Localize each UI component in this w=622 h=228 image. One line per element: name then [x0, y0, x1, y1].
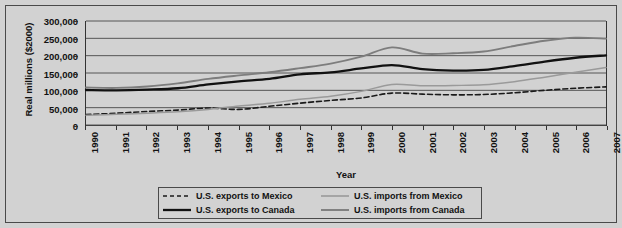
y-tick-mark — [74, 39, 78, 40]
x-tick-mark — [116, 126, 117, 130]
x-tick-mark — [177, 126, 178, 130]
data-series-layer — [86, 21, 606, 125]
legend-entry: U.S. exports to Mexico — [162, 191, 320, 201]
x-tick-mark — [423, 126, 424, 130]
solid-black-line-icon — [162, 205, 192, 215]
x-tick-label: 1995 — [243, 132, 254, 153]
x-tick-mark — [546, 126, 547, 130]
x-tick-label: 2003 — [488, 132, 499, 153]
x-tick-mark — [515, 126, 516, 130]
chart-legend: U.S. exports to MexicoU.S. imports from … — [158, 187, 482, 219]
y-tick-label: 100,000 — [12, 86, 78, 97]
y-tick-mark — [74, 126, 78, 127]
x-tick-label: 2000 — [396, 132, 407, 153]
chart-figure: Real millions ($2000) 050,000100,000150,… — [0, 0, 622, 228]
x-tick-label: 1992 — [150, 132, 161, 153]
plot-area — [85, 21, 607, 126]
x-tick-label: 2001 — [427, 132, 438, 153]
x-tick-mark — [331, 126, 332, 130]
x-tick-mark — [85, 126, 86, 130]
legend-entry: U.S. exports to Canada — [162, 205, 320, 215]
y-axis-tick-labels: 050,000100,000150,000200,000250,000300,0… — [6, 21, 78, 126]
x-tick-mark — [300, 126, 301, 130]
y-tick-label: 250,000 — [12, 33, 78, 44]
x-tick-label: 1999 — [365, 132, 376, 153]
x-tick-label: 2002 — [457, 132, 468, 153]
y-tick-mark — [74, 91, 78, 92]
x-tick-mark — [576, 126, 577, 130]
y-tick-mark — [74, 56, 78, 57]
x-tick-label: 1996 — [273, 132, 284, 153]
x-tick-mark — [484, 126, 485, 130]
solid-lightgray-line-icon — [320, 191, 350, 201]
chart-frame: Real millions ($2000) 050,000100,000150,… — [5, 5, 617, 223]
x-tick-label: 2005 — [550, 132, 561, 153]
legend-entry: U.S. imports from Mexico — [320, 191, 478, 201]
y-tick-mark — [74, 109, 78, 110]
x-axis-tick-labels: 1990199119921993199419951996199719981999… — [85, 132, 607, 166]
y-tick-label: 150,000 — [12, 68, 78, 79]
dashed-black-line-icon — [162, 191, 192, 201]
x-tick-mark — [239, 126, 240, 130]
x-axis-tick-marks — [85, 126, 607, 131]
legend-entry: U.S. imports from Canada — [320, 205, 478, 215]
x-tick-label: 1998 — [335, 132, 346, 153]
x-tick-label: 2006 — [580, 132, 591, 153]
x-axis-title: Year — [85, 169, 607, 180]
x-tick-label: 1997 — [304, 132, 315, 153]
legend-label: U.S. exports to Mexico — [196, 192, 293, 201]
x-tick-label: 2004 — [519, 132, 530, 153]
legend-label: U.S. imports from Canada — [354, 206, 465, 215]
x-tick-mark — [208, 126, 209, 130]
x-tick-mark — [146, 126, 147, 130]
series-line — [86, 87, 606, 115]
x-tick-label: 1993 — [181, 132, 192, 153]
y-tick-label: 0 — [12, 121, 78, 132]
legend-label: U.S. imports from Mexico — [354, 192, 463, 201]
y-tick-mark — [74, 74, 78, 75]
x-tick-label: 1990 — [89, 132, 100, 153]
legend-label: U.S. exports to Canada — [196, 206, 295, 215]
y-tick-mark — [74, 21, 78, 22]
x-tick-label: 1991 — [120, 132, 131, 153]
x-tick-mark — [269, 126, 270, 130]
x-tick-mark — [453, 126, 454, 130]
y-tick-label: 50,000 — [12, 103, 78, 114]
solid-gray-line-icon — [320, 205, 350, 215]
x-tick-mark — [607, 126, 608, 130]
x-tick-label: 2007 — [611, 132, 622, 153]
x-tick-mark — [392, 126, 393, 130]
x-tick-label: 1994 — [212, 132, 223, 153]
y-tick-label: 200,000 — [12, 51, 78, 62]
x-tick-mark — [361, 126, 362, 130]
y-tick-label: 300,000 — [12, 16, 78, 27]
